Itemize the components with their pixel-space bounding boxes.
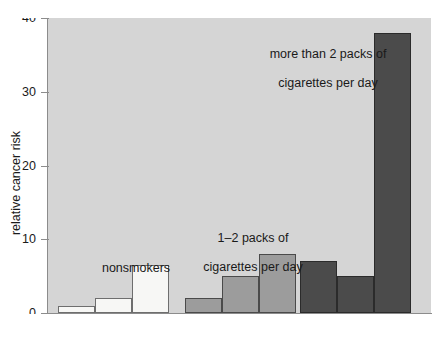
y-tick-mark [41,166,49,167]
y-tick-label: 10 [22,233,36,245]
bar [58,306,95,313]
annotation-moderate-smokers: 1–2 packs of cigarettes per day [178,216,328,274]
y-axis-title: relative cancer risk [9,113,23,253]
bar [95,298,132,313]
y-tick-label: 30 [22,86,36,98]
page-margin-bottom [0,314,448,351]
y-tick-mark [41,18,49,19]
bar [222,276,259,313]
page-margin-top-left [0,0,48,18]
annotation-heavy-smokers: more than 2 packs of cigarettes per day [252,32,404,90]
annotation-heavy-line2: cigarettes per day [278,76,377,90]
annotation-moderate-line1: 1–2 packs of [218,231,289,245]
bar [185,298,222,313]
annotation-moderate-line2: cigarettes per day [203,260,302,274]
y-tick-mark [41,239,49,240]
y-tick-label: 20 [22,160,36,172]
annotation-nonsmokers-line1: nonsmokers [102,261,170,275]
page-margin-top-right [180,0,448,18]
annotation-heavy-line1: more than 2 packs of [270,47,387,61]
bar [337,276,374,313]
y-tick-mark [41,92,49,93]
bar-chart-figure: 403020100 01–24+01–24+01–24+ relative ca… [0,0,448,351]
